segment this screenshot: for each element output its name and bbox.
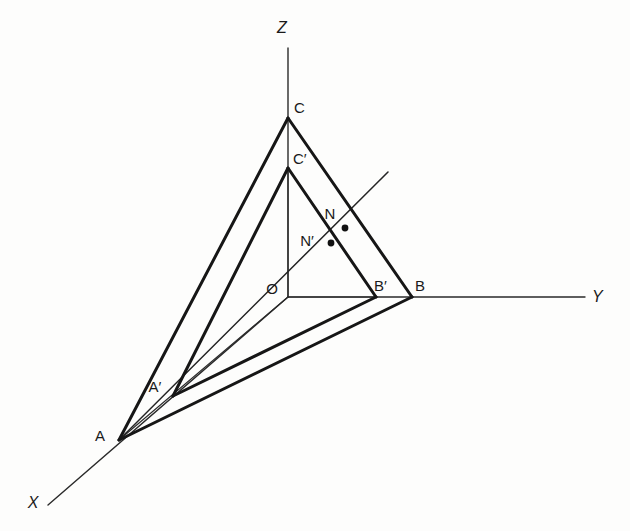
axis-label-z: Z [276, 19, 288, 36]
ray-a-through-n [119, 172, 388, 440]
edge-a-to-c [119, 118, 288, 440]
vertex-label-a-prime: A′ [149, 378, 162, 395]
vertex-label-n: N [325, 205, 336, 222]
edge-a-to-b [119, 297, 412, 440]
axis-label-x: X [27, 494, 40, 511]
vertex-label-b: B [415, 277, 425, 294]
geometry-diagram: Z Y X O A B C A′ B′ C′ N N′ [0, 0, 630, 531]
point-dot-n-prime [328, 240, 335, 247]
vertex-label-n-prime: N′ [300, 232, 314, 249]
vertex-label-b-prime: B′ [374, 277, 387, 294]
edge-c-to-b [288, 118, 412, 297]
axis-label-y: Y [592, 288, 604, 305]
axis-labels-group: Z Y X [27, 19, 604, 511]
point-dot-n [342, 225, 349, 232]
vertex-label-c: C [294, 99, 305, 116]
vertex-label-a: A [95, 427, 105, 444]
vertex-label-o: O [266, 280, 278, 297]
edge-a-prime-to-b-prime [173, 297, 376, 396]
ray-group [119, 172, 388, 440]
figure-canvas: Z Y X O A B C A′ B′ C′ N N′ [0, 0, 630, 531]
construction-lines-group [119, 168, 376, 440]
vertex-label-c-prime: C′ [293, 150, 307, 167]
outer-triangle-group [119, 118, 412, 440]
